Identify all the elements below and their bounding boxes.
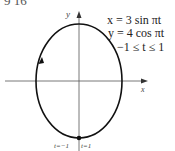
x-equation: x = 3 sin πt	[107, 14, 161, 26]
t-range: −1 ≤ t ≤ 1	[117, 41, 164, 53]
x-axis	[5, 79, 148, 84]
label-t-1: t=1	[81, 142, 91, 150]
start-end-point	[77, 136, 82, 141]
y-axis-label: y	[66, 9, 70, 19]
y-equation: y = 4 cos πt	[108, 27, 164, 39]
x-axis-arrow-icon	[141, 79, 148, 84]
y-axis-arrow-icon	[77, 11, 82, 18]
x-axis-label: x	[141, 85, 145, 94]
label-t-minus-1: t=−1	[54, 142, 69, 150]
